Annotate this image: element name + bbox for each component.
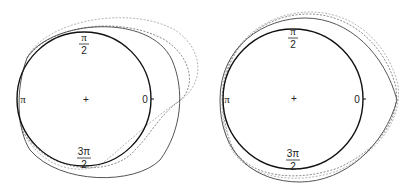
right-label-pi-half-num: π xyxy=(290,25,296,37)
left-panel: π 2 π 0 + 3π 2 xyxy=(17,18,198,178)
right-dashed-curve-inner xyxy=(223,14,396,176)
right-solid-curve xyxy=(220,18,397,182)
left-label-3pi-half-num: 3π xyxy=(78,146,91,157)
left-label-pi: π xyxy=(20,93,26,105)
right-panel: π 2 π 0 + 3π 2 xyxy=(220,12,398,182)
right-label-pi-half-den: 2 xyxy=(290,39,296,50)
left-label-zero: 0 xyxy=(142,94,148,105)
polar-curves-figure: π 2 π 0 + 3π 2 π 2 π 0 + 3π 2 xyxy=(0,0,414,190)
right-label-3pi-half-den: 2 xyxy=(290,161,296,172)
right-label-3pi-half-num: 3π xyxy=(287,148,300,159)
left-solid-curve xyxy=(19,27,180,178)
left-label-pi-half-num: π xyxy=(81,31,87,43)
left-label-pi-half-den: 2 xyxy=(81,45,87,56)
right-label-zero: 0 xyxy=(354,94,360,105)
right-center-mark: + xyxy=(291,93,297,104)
right-label-pi: π xyxy=(224,93,230,105)
left-label-3pi-half-den: 2 xyxy=(81,159,87,170)
left-center-mark: + xyxy=(83,94,89,105)
left-dashed-curve-inner xyxy=(22,26,189,168)
